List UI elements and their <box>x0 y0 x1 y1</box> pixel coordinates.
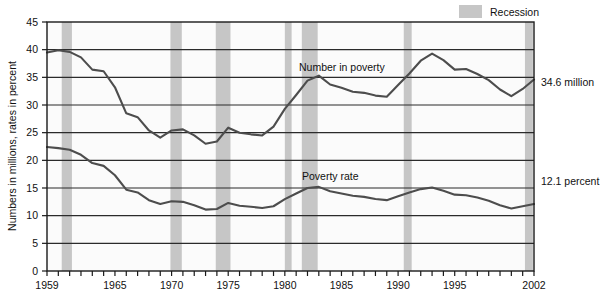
y-tick-label: 40 <box>26 43 38 55</box>
x-tick-label: 1965 <box>103 279 127 291</box>
recession-band <box>285 22 292 271</box>
end-label-poverty-rate: 12.1 percent <box>541 175 599 187</box>
x-tick-label: 1980 <box>273 279 297 291</box>
poverty-chart-figure: 051015202530354045 195919651970197519801… <box>0 0 614 301</box>
y-tick-label: 20 <box>26 154 38 166</box>
recession-band <box>170 22 181 271</box>
y-tick-label: 10 <box>26 209 38 221</box>
recession-band <box>404 22 412 271</box>
legend-swatch-recession <box>459 5 482 18</box>
legend: Recession <box>459 5 539 18</box>
x-tick-label: 1970 <box>160 279 184 291</box>
x-tick-label: 1959 <box>35 279 59 291</box>
series-label-poverty-rate: Poverty rate <box>302 170 359 182</box>
chart-canvas: 051015202530354045 195919651970197519801… <box>0 0 614 301</box>
y-tick-label: 15 <box>26 182 38 194</box>
y-tick-label: 30 <box>26 99 38 111</box>
x-tick-label: 1975 <box>217 279 241 291</box>
recession-band <box>525 22 533 271</box>
recession-band <box>62 22 72 271</box>
x-tick-label: 1985 <box>330 279 354 291</box>
y-tick-label: 25 <box>26 126 38 138</box>
y-axis-title: Numbers in millions, rates in percent <box>6 61 18 231</box>
end-label-number-in-poverty: 34.6 million <box>541 76 594 88</box>
x-tick-label: 1990 <box>386 279 410 291</box>
y-tick-label: 5 <box>32 237 38 249</box>
recession-band <box>216 22 231 271</box>
series-label-number-in-poverty: Number in poverty <box>299 61 386 73</box>
recession-band <box>302 22 318 271</box>
y-tick-label: 0 <box>32 265 38 277</box>
x-tick-label: 1995 <box>443 279 467 291</box>
legend-label-recession: Recession <box>490 6 539 18</box>
x-tick-label: 2002 <box>522 279 546 291</box>
y-tick-label: 35 <box>26 71 38 83</box>
y-tick-label: 45 <box>26 16 38 28</box>
